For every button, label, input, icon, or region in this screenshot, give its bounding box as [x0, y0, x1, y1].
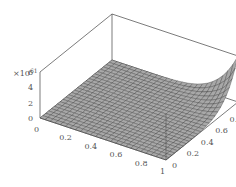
z-tick-label: 6 — [28, 68, 33, 77]
x-tick-label: 0.2 — [59, 133, 72, 142]
y-tick-label: 0.6 — [215, 126, 228, 135]
z-tick-label: 0 — [28, 114, 33, 123]
y-tick-label: 0.8 — [230, 115, 236, 124]
z-multiplier-label: ×1061 — [13, 67, 38, 78]
x-tick-label: 1 — [160, 167, 165, 176]
z-tick-label: 2 — [28, 99, 33, 108]
box-edge — [40, 14, 112, 72]
surface-plot: ×1061 00.20.40.60.8100.20.40.60.810246 — [0, 0, 236, 187]
surface-plot-canvas: ×1061 00.20.40.60.8100.20.40.60.810246 — [0, 0, 236, 187]
x-tick-label: 0.4 — [84, 142, 97, 151]
y-tick-label: 0.4 — [201, 138, 214, 147]
y-tick-label: 0 — [172, 161, 177, 170]
x-tick-label: 0.8 — [135, 159, 148, 168]
y-tick-label: 0.2 — [186, 149, 199, 158]
box-edge — [112, 14, 236, 56]
x-tick-label: 0 — [34, 125, 39, 134]
x-tick-label: 0.6 — [110, 150, 123, 159]
z-tick-label: 4 — [28, 83, 33, 92]
